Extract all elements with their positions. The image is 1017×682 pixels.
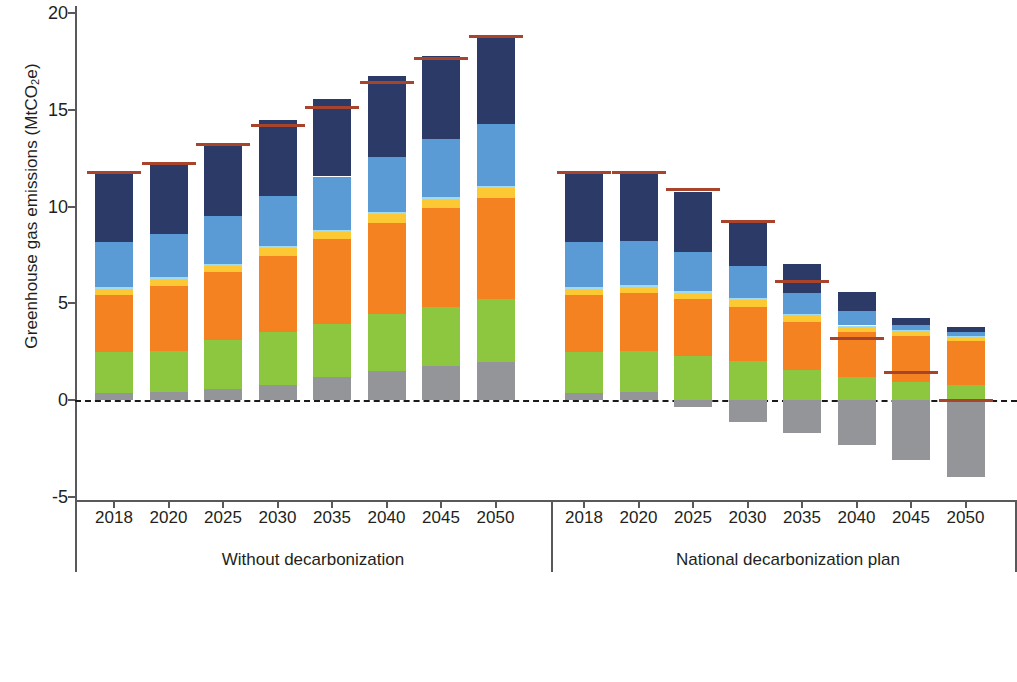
bar-segment-waste: [947, 385, 985, 400]
net-emissions-marker: [196, 143, 250, 146]
bar-2040-baseline[interactable]: [368, 0, 406, 500]
bar-2018-plan[interactable]: [565, 0, 603, 500]
bar-segment-agriculture-livestock-and-forestry: [565, 393, 603, 400]
bar-2045-plan[interactable]: [892, 0, 930, 500]
bar-2045-baseline[interactable]: [422, 0, 460, 500]
bar-segment-waste: [150, 351, 188, 393]
x-axis-category-2045-plan: 2045: [883, 508, 939, 528]
x-tick-mark: [747, 500, 749, 508]
x-axis-category-2018-baseline: 2018: [86, 508, 142, 528]
x-tick-mark: [801, 500, 803, 508]
bar-segment-industry: [729, 307, 767, 361]
x-axis-category-2050-plan: 2050: [938, 508, 994, 528]
net-emissions-marker: [251, 124, 305, 127]
bar-segment-freight: [620, 241, 658, 285]
bar-2018-baseline[interactable]: [95, 0, 133, 500]
bar-segment-industry: [259, 256, 297, 332]
bar-segment-industry: [674, 299, 712, 356]
bar-segment-waste: [204, 340, 242, 389]
bar-segment-agriculture-livestock-and-forestry: [477, 362, 515, 400]
x-axis-category-2030-plan: 2030: [720, 508, 776, 528]
bar-segment-industry: [204, 272, 242, 340]
bar-segment-industry: [620, 293, 658, 351]
bar-segment-agriculture-livestock-and-forestry: [620, 392, 658, 400]
bar-2020-baseline[interactable]: [150, 0, 188, 500]
bar-segment-buildings: [892, 331, 930, 336]
bar-segment-electricity: [368, 212, 406, 214]
bar-2030-baseline[interactable]: [259, 0, 297, 500]
bar-segment-public-and-private-transport: [313, 99, 351, 176]
bar-2040-plan[interactable]: [838, 0, 876, 500]
bar-2025-baseline[interactable]: [204, 0, 242, 500]
bar-2035-plan[interactable]: [783, 0, 821, 500]
bar-segment-public-and-private-transport: [422, 56, 460, 139]
bar-segment-waste: [729, 361, 767, 400]
y-axis-label-subscript: 2: [29, 79, 41, 85]
bar-segment-buildings: [674, 293, 712, 300]
x-tick-mark: [495, 500, 497, 508]
bar-segment-agriculture-livestock-and-forestry: [204, 389, 242, 400]
net-emissions-marker: [939, 399, 993, 402]
bar-segment-waste: [838, 377, 876, 400]
group-label-national-decarbonization-plan: National decarbonization plan: [588, 550, 988, 570]
net-emissions-marker: [775, 280, 829, 283]
bar-segment-public-and-private-transport: [204, 143, 242, 217]
bar-2050-plan[interactable]: [947, 0, 985, 500]
bar-segment-waste: [783, 370, 821, 400]
x-tick-mark: [113, 500, 115, 508]
y-tick-label-15: 15: [22, 99, 68, 120]
bar-segment-freight: [95, 242, 133, 287]
x-tick-mark: [638, 500, 640, 508]
bar-segment-electricity: [313, 230, 351, 232]
bar-segment-electricity: [783, 314, 821, 315]
bar-segment-public-and-private-transport: [947, 327, 985, 332]
bar-segment-buildings: [150, 279, 188, 286]
x-tick-mark: [168, 500, 170, 508]
bar-segment-electricity: [565, 287, 603, 289]
bar-segment-freight: [729, 266, 767, 298]
bar-segment-electricity: [150, 277, 188, 279]
bar-segment-electricity: [947, 336, 985, 337]
bar-segment-buildings: [204, 266, 242, 273]
bar-segment-public-and-private-transport: [838, 292, 876, 311]
x-tick-mark: [965, 500, 967, 508]
bar-2020-plan[interactable]: [620, 0, 658, 500]
bar-2025-plan[interactable]: [674, 0, 712, 500]
bar-segment-public-and-private-transport: [150, 164, 188, 234]
bar-2050-baseline[interactable]: [477, 0, 515, 500]
bar-segment-buildings: [838, 326, 876, 332]
x-axis-category-2050-baseline: 2050: [468, 508, 524, 528]
bar-segment-public-and-private-transport: [783, 264, 821, 293]
bar-segment-industry: [947, 341, 985, 385]
bar-segment-industry: [422, 208, 460, 307]
group-divider-middle: [551, 500, 553, 572]
x-tick-mark: [277, 500, 279, 508]
bar-segment-buildings: [783, 315, 821, 322]
bar-2030-plan[interactable]: [729, 0, 767, 500]
bar-segment-public-and-private-transport: [565, 173, 603, 243]
plot-area: [75, 0, 1017, 500]
bar-segment-freight: [259, 196, 297, 246]
bar-2035-baseline[interactable]: [313, 0, 351, 500]
bar-segment-industry: [95, 295, 133, 352]
bar-segment-buildings: [947, 337, 985, 341]
bar-segment-waste: [313, 324, 351, 377]
bar-segment-freight: [783, 293, 821, 314]
bar-segment-public-and-private-transport: [620, 172, 658, 242]
bar-segment-electricity: [204, 264, 242, 266]
x-tick-mark: [910, 500, 912, 508]
x-axis-line: [75, 500, 1017, 502]
bar-segment-agriculture-livestock-and-forestry-negative: [783, 400, 821, 433]
x-tick-mark: [856, 500, 858, 508]
bar-segment-agriculture-livestock-and-forestry: [368, 371, 406, 400]
bar-segment-waste: [368, 314, 406, 371]
bar-segment-buildings: [620, 287, 658, 293]
bar-segment-industry: [150, 286, 188, 351]
legend: Sectors Public and private transportFrei…: [0, 612, 1017, 682]
bar-segment-electricity: [892, 330, 930, 331]
bar-segment-waste: [620, 351, 658, 393]
x-axis-category-2040-baseline: 2040: [359, 508, 415, 528]
bar-segment-freight: [204, 216, 242, 263]
net-emissions-marker: [87, 171, 141, 174]
bar-segment-waste: [892, 382, 930, 400]
